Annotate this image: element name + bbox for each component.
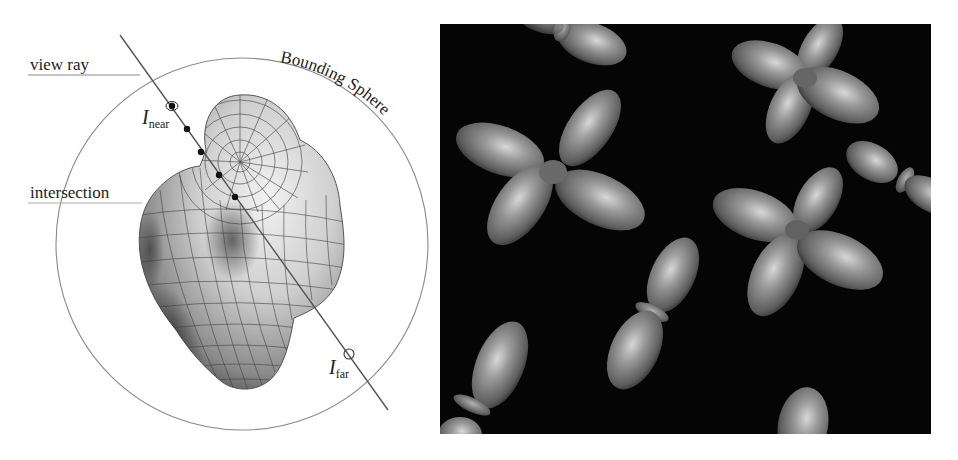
intersection-label: intersection bbox=[30, 183, 110, 202]
rendered-surfaces-image bbox=[440, 24, 931, 434]
view-ray-label: view ray bbox=[30, 55, 90, 74]
bounding-sphere-diagram: view ray intersection Inear Ifar Boundin… bbox=[0, 0, 440, 460]
sample-point bbox=[216, 172, 222, 178]
implicit-surface bbox=[132, 95, 348, 390]
sample-point bbox=[184, 126, 190, 132]
i-far-marker bbox=[344, 349, 354, 359]
bounding-sphere-label: Bounding Sphere bbox=[279, 47, 394, 118]
render-canvas bbox=[440, 24, 931, 434]
diagram-canvas: view ray intersection Inear Ifar Boundin… bbox=[0, 0, 440, 460]
sample-point bbox=[232, 194, 238, 200]
sample-point bbox=[198, 149, 204, 155]
i-far-label: Ifar bbox=[328, 356, 349, 381]
i-near-label: Inear bbox=[141, 106, 169, 131]
